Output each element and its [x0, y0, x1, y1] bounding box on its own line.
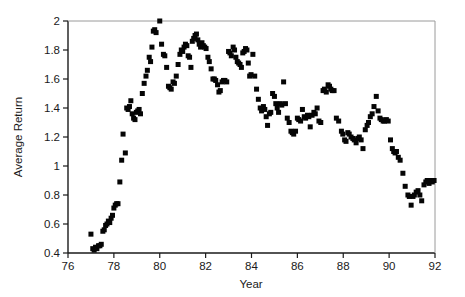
- data-point: [354, 140, 359, 145]
- data-point: [229, 53, 234, 58]
- data-point: [287, 120, 292, 125]
- data-point: [239, 65, 244, 70]
- data-point: [388, 137, 393, 142]
- data-point: [244, 48, 249, 53]
- data-point: [398, 158, 403, 163]
- data-point: [204, 46, 209, 51]
- data-point: [107, 220, 112, 225]
- data-point: [121, 132, 126, 137]
- data-point: [209, 66, 214, 71]
- data-point: [344, 139, 349, 144]
- data-point: [102, 227, 107, 232]
- data-point: [272, 94, 277, 99]
- x-axis-title: Year: [239, 278, 262, 290]
- data-point: [176, 62, 181, 67]
- x-tick-label: 84: [245, 260, 258, 272]
- x-tick-label: 78: [107, 260, 120, 272]
- data-point: [154, 30, 159, 35]
- y-tick-label: 2: [54, 15, 60, 27]
- data-point: [419, 198, 424, 203]
- data-point: [174, 74, 179, 79]
- data-point: [88, 232, 93, 237]
- data-point: [416, 188, 421, 193]
- data-point: [318, 120, 323, 125]
- data-point: [262, 107, 267, 112]
- data-point: [359, 137, 364, 142]
- data-point: [283, 101, 288, 106]
- data-point: [370, 111, 375, 116]
- data-point: [180, 49, 185, 54]
- data-point: [281, 79, 286, 84]
- x-tick-label: 76: [62, 260, 75, 272]
- data-point: [215, 82, 220, 87]
- data-point: [143, 74, 148, 79]
- x-tick-label: 82: [199, 260, 212, 272]
- data-point: [300, 107, 305, 112]
- data-point: [224, 79, 229, 84]
- data-point: [207, 59, 212, 64]
- data-point: [187, 55, 192, 60]
- y-axis-title: Average Return: [12, 97, 24, 177]
- data-point: [386, 119, 391, 124]
- y-axis-ticks: [63, 21, 68, 253]
- x-tick-label: 80: [153, 260, 166, 272]
- data-point: [332, 88, 337, 93]
- data-point: [138, 111, 143, 116]
- y-tick-label: 0.4: [44, 247, 61, 259]
- x-tick-label: 88: [337, 260, 350, 272]
- data-point: [159, 42, 164, 47]
- x-axis-ticks: [68, 253, 435, 258]
- data-point: [336, 119, 341, 124]
- data-point: [308, 124, 313, 129]
- data-point: [366, 120, 371, 125]
- data-point: [205, 55, 210, 60]
- data-point: [128, 98, 133, 103]
- data-point: [293, 129, 298, 134]
- y-axis-tick-labels: 0.40.60.811.21.41.61.82: [44, 15, 61, 259]
- data-point-markers: [88, 19, 436, 253]
- data-point: [275, 106, 280, 111]
- data-point: [132, 117, 137, 122]
- data-point: [145, 68, 150, 73]
- data-point: [417, 193, 422, 198]
- x-tick-label: 90: [383, 260, 396, 272]
- data-point: [265, 123, 270, 128]
- data-point: [394, 149, 399, 154]
- data-point: [252, 74, 257, 79]
- data-point: [363, 127, 368, 132]
- data-point: [256, 97, 261, 102]
- data-point: [142, 81, 147, 86]
- data-point: [313, 111, 318, 116]
- data-point: [184, 43, 189, 48]
- data-point: [116, 201, 121, 206]
- data-point: [162, 53, 167, 58]
- plot-svg: 767880828486889092 0.40.60.811.21.41.61.…: [0, 0, 465, 297]
- data-point: [172, 81, 177, 86]
- data-point: [324, 90, 329, 95]
- data-point: [119, 158, 124, 163]
- data-point: [148, 59, 153, 64]
- y-tick-label: 0.6: [44, 218, 60, 230]
- data-point: [164, 65, 169, 70]
- data-point: [140, 91, 145, 96]
- data-point: [110, 213, 115, 218]
- data-point: [147, 55, 152, 60]
- data-point: [400, 171, 405, 176]
- data-point: [157, 19, 162, 24]
- y-tick-label: 1.6: [44, 73, 60, 85]
- x-tick-label: 86: [291, 260, 304, 272]
- data-point: [409, 203, 414, 208]
- data-point: [298, 119, 303, 124]
- y-tick-label: 1.4: [44, 102, 61, 114]
- y-tick-label: 1.8: [44, 44, 60, 56]
- data-point: [374, 94, 379, 99]
- data-point: [432, 178, 437, 183]
- data-point: [371, 104, 376, 109]
- data-point: [123, 150, 128, 155]
- data-point: [233, 55, 238, 60]
- data-point: [137, 107, 142, 112]
- data-point: [315, 106, 320, 111]
- data-point: [268, 110, 273, 115]
- data-point: [403, 184, 408, 189]
- data-point: [169, 87, 174, 92]
